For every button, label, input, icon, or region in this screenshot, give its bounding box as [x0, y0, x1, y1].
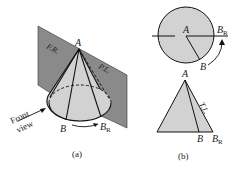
figure-a: A F.R. P.L. B BR Front view (a)	[9, 26, 127, 159]
label-front-br: BR	[212, 133, 223, 146]
label-front-b: B	[197, 133, 203, 144]
label-top-br: BR	[217, 24, 228, 37]
label-top-b: B	[200, 61, 206, 72]
figure-b-front-view: A T.L. B BR (b)	[157, 68, 223, 161]
label-top-a: A	[182, 24, 190, 35]
label-br: BR	[100, 121, 111, 134]
figure-b-top-view: A B BR	[152, 7, 228, 72]
label-b: B	[60, 123, 66, 134]
caption-b: (b)	[178, 151, 189, 161]
diagram-canvas: A F.R. P.L. B BR Front view (a) A B BR A…	[0, 0, 240, 170]
caption-a: (a)	[72, 149, 82, 159]
label-front-a: A	[181, 68, 189, 79]
label-apex-a: A	[74, 37, 82, 48]
